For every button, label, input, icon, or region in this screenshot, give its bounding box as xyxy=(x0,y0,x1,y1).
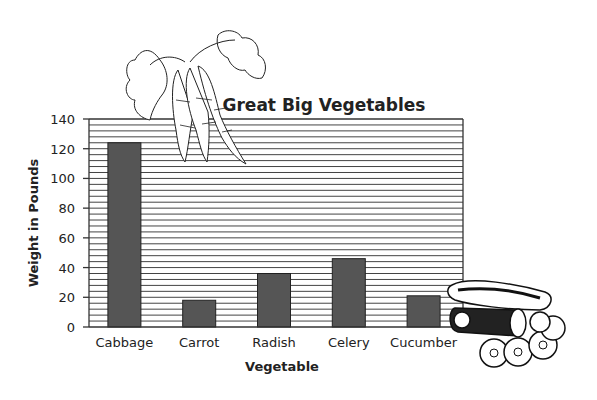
bar-cabbage xyxy=(108,143,141,327)
bar-radish xyxy=(258,274,291,327)
y-axis-ticks: 020406080100120140 xyxy=(50,112,89,335)
chart-title: Great Big Vegetables xyxy=(223,95,426,115)
y-tick-label: 140 xyxy=(50,112,75,127)
bar-chart: 020406080100120140 CabbageCarrotRadishCe… xyxy=(0,0,597,400)
x-tick-label: Radish xyxy=(252,335,296,350)
y-tick-label: 40 xyxy=(58,261,75,276)
x-tick-label: Carrot xyxy=(179,335,219,350)
x-tick-label: Cabbage xyxy=(96,335,154,350)
y-tick-label: 120 xyxy=(50,142,75,157)
bars xyxy=(108,143,440,327)
y-tick-label: 20 xyxy=(58,290,75,305)
x-axis-title: Vegetable xyxy=(245,359,319,374)
y-tick-label: 80 xyxy=(58,201,75,216)
cucumber-illustration xyxy=(448,281,565,367)
bar-carrot xyxy=(183,300,216,327)
y-tick-label: 100 xyxy=(50,171,75,186)
x-tick-label: Cucumber xyxy=(390,335,458,350)
y-tick-label: 0 xyxy=(67,320,75,335)
y-axis-title: Weight in Pounds xyxy=(26,158,41,287)
x-axis-labels: CabbageCarrotRadishCeleryCucumber xyxy=(96,335,458,350)
bar-celery xyxy=(332,259,365,327)
x-tick-label: Celery xyxy=(328,335,370,350)
bar-cucumber xyxy=(407,296,440,327)
y-tick-label: 60 xyxy=(58,231,75,246)
